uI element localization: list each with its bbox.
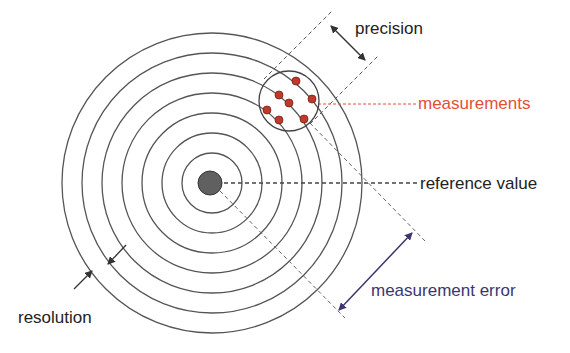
resolution-arrow-outer [74,271,92,289]
resolution-arrow-inner [108,245,126,264]
measurement-point [263,106,271,114]
error-boundary-cluster [305,118,427,243]
error-boundary-center [220,191,345,318]
precision-boundary-lower [310,56,378,124]
measurement-point [275,91,283,99]
measurement-point [275,116,283,124]
reference-value-dot [198,171,222,195]
measurements-label: measurements [418,95,530,112]
resolution-label: resolution [18,309,92,326]
precision-label: precision [355,20,423,37]
measurement-point [300,115,308,123]
measurement-points [263,77,316,124]
reference-value-label: reference value [420,175,537,192]
measurement-point [308,95,316,103]
measurement-point [285,99,293,107]
measurement-point [292,77,300,85]
measurement-error-label: measurement error [371,282,516,299]
precision-boundary-upper [264,10,333,79]
